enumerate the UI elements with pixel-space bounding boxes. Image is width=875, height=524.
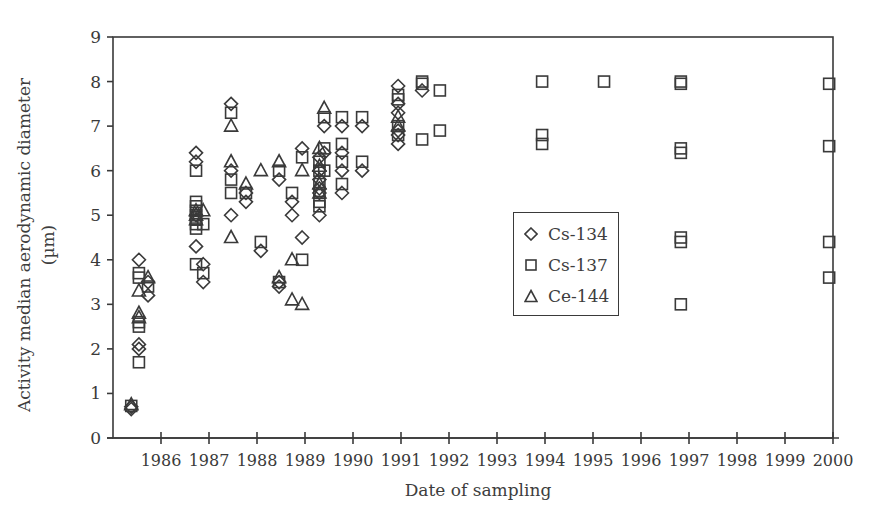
diamond-marker [273,173,286,186]
diamond-marker [225,97,238,110]
legend-label: Ce-144 [548,286,609,306]
diamond-marker [392,80,405,93]
y-axis-label-line1: Activity median aerodynamic diameter [12,78,36,412]
square-marker [133,268,144,279]
diamond-marker [392,137,405,150]
diamond-marker [132,338,145,351]
diamond-marker [190,240,203,253]
square-marker [336,138,347,149]
square-marker [675,299,686,310]
diamond-marker [132,253,145,266]
diamond-marker [239,195,252,208]
square-marker [191,165,202,176]
square-marker [336,156,347,167]
diamond-marker [335,146,348,159]
x-tick-label: 1993 [477,451,518,470]
diamond-marker [416,84,429,97]
square-marker [226,187,237,198]
square-marker [133,357,144,368]
triangle-marker [225,231,238,243]
y-axis-label: Activity median aerodynamic diameter (µm… [12,78,60,412]
legend: Cs-134 Cs-137 Ce-144 [513,212,619,316]
x-tick-label: 1992 [429,451,470,470]
x-tick-label: 1989 [285,451,326,470]
square-marker [675,143,686,154]
y-tick-label: 9 [90,27,101,47]
y-tick-label: 2 [90,339,101,359]
square-marker [357,112,368,123]
square-marker [226,174,237,185]
y-tick-label: 6 [90,161,101,181]
x-tick-label: 1990 [333,451,374,470]
diamond-marker [132,342,145,355]
y-axis-label-line2: (µm) [36,78,60,412]
triangle-marker-icon [524,289,538,303]
square-marker [434,85,445,96]
x-tick-label: 1999 [765,451,806,470]
y-tick-label: 0 [90,428,101,448]
x-tick-label: 1988 [237,451,278,470]
diamond-marker [225,209,238,222]
diamond-marker [356,120,369,133]
y-tick-label: 5 [90,205,101,225]
x-tick-label: 1996 [621,451,662,470]
x-tick-label: 1998 [717,451,758,470]
square-marker-icon [524,258,538,272]
y-tick-label: 7 [90,116,101,136]
diamond-marker [313,209,326,222]
square-marker [434,125,445,136]
square-marker [675,232,686,243]
square-marker [297,152,308,163]
y-tick-label: 4 [90,250,101,270]
square-marker [357,156,368,167]
series-cs-134 [125,80,429,416]
x-tick-label: 1991 [381,451,422,470]
diamond-marker [190,155,203,168]
square-marker [226,107,237,118]
legend-item-cs137: Cs-137 [524,250,608,280]
square-marker [417,134,428,145]
data-points [125,76,835,415]
legend-label: Cs-137 [548,255,608,275]
legend-label: Cs-134 [548,224,608,244]
triangle-marker [254,164,267,176]
square-marker [336,112,347,123]
diamond-marker [197,276,210,289]
diamond-marker [356,164,369,177]
square-marker [314,201,325,212]
y-tick-label: 3 [90,294,101,314]
diamond-marker [286,209,299,222]
square-marker [393,94,404,105]
diamond-marker-icon [524,227,538,241]
triangle-marker [296,164,309,176]
square-marker [675,147,686,158]
diamond-marker [392,97,405,110]
diamond-marker [318,120,331,133]
diamond-marker [254,244,267,257]
square-marker [393,89,404,100]
series-cs-137 [126,76,835,411]
square-marker [255,236,266,247]
diamond-marker [335,164,348,177]
triangle-marker [286,293,299,305]
x-tick-label: 1997 [669,451,710,470]
diamond-marker [296,231,309,244]
x-axis-label: Date of sampling [405,480,552,500]
x-tick-label: 1986 [141,451,182,470]
diamond-marker [197,258,210,271]
y-tick-label: 1 [90,383,101,403]
square-marker [287,187,298,198]
x-tick-label: 1994 [525,451,566,470]
diamond-marker [286,195,299,208]
diamond-marker [335,120,348,133]
square-marker [675,236,686,247]
x-tick-label: 1995 [573,451,614,470]
diamond-marker [296,142,309,155]
diamond-marker [190,146,203,159]
x-tick-label: 2000 [813,451,854,470]
square-marker [599,76,610,87]
axes: 0123456789198619871988198919901991199219… [90,27,853,470]
legend-item-cs134: Cs-134 [524,219,608,249]
diamond-marker [335,186,348,199]
square-marker [336,179,347,190]
